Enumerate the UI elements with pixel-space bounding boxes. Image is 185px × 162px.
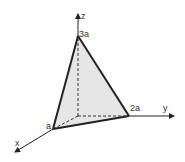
vertex-2a-label: 2a xyxy=(130,103,140,113)
vertex-3a-label: 3a xyxy=(79,29,89,39)
z-axis-label: z xyxy=(81,11,86,21)
x-axis xyxy=(15,129,53,152)
tetrahedron-face xyxy=(53,36,129,129)
diagram: z y x 3a 2a a xyxy=(0,0,185,162)
vertex-a-label: a xyxy=(46,121,51,131)
y-axis-label: y xyxy=(163,103,168,113)
x-axis-label: x xyxy=(15,138,20,148)
